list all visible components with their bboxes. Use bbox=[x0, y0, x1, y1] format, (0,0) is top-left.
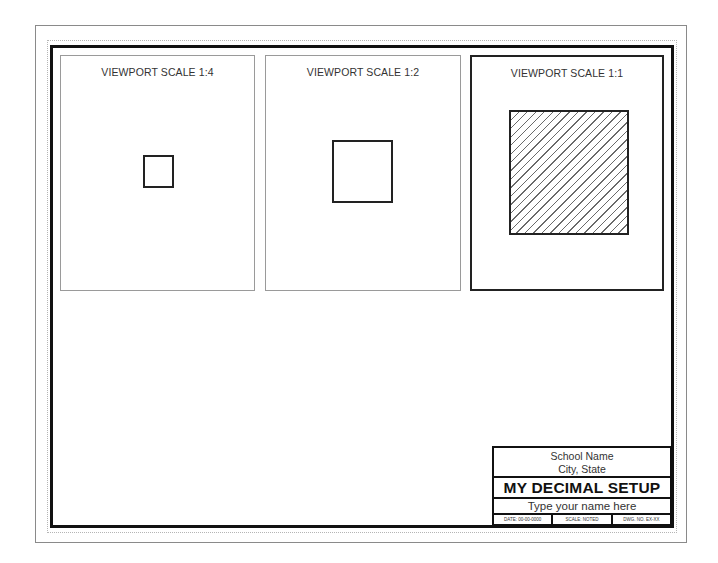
square-object[interactable] bbox=[143, 155, 174, 188]
drawing-info-row: DATE: 00-00-0000 SCALE: NOTED DWG. NO. E… bbox=[494, 515, 670, 524]
school-name: School Name bbox=[494, 450, 670, 463]
hatched-square-object[interactable] bbox=[509, 110, 629, 235]
viewport-label: VIEWPORT SCALE 1:2 bbox=[266, 66, 460, 78]
date-field[interactable]: DATE: 00-00-0000 bbox=[494, 515, 553, 524]
school-info[interactable]: School Name City, State bbox=[494, 448, 670, 478]
student-name-field[interactable]: Type your name here bbox=[494, 499, 670, 515]
viewport-label: VIEWPORT SCALE 1:4 bbox=[61, 66, 254, 78]
square-object[interactable] bbox=[332, 140, 393, 203]
viewport-scale-1-2[interactable]: VIEWPORT SCALE 1:2 bbox=[265, 55, 461, 291]
scale-field[interactable]: SCALE: NOTED bbox=[553, 515, 612, 524]
drawing-title[interactable]: MY DECIMAL SETUP bbox=[494, 478, 670, 499]
title-block: School Name City, State MY DECIMAL SETUP… bbox=[492, 446, 672, 526]
viewport-scale-1-4[interactable]: VIEWPORT SCALE 1:4 bbox=[60, 55, 255, 291]
drawing-number-field[interactable]: DWG. NO. EX-XX bbox=[613, 515, 670, 524]
viewport-scale-1-1[interactable]: VIEWPORT SCALE 1:1 bbox=[470, 55, 664, 291]
city-state: City, State bbox=[494, 463, 670, 476]
viewport-label: VIEWPORT SCALE 1:1 bbox=[472, 67, 662, 79]
